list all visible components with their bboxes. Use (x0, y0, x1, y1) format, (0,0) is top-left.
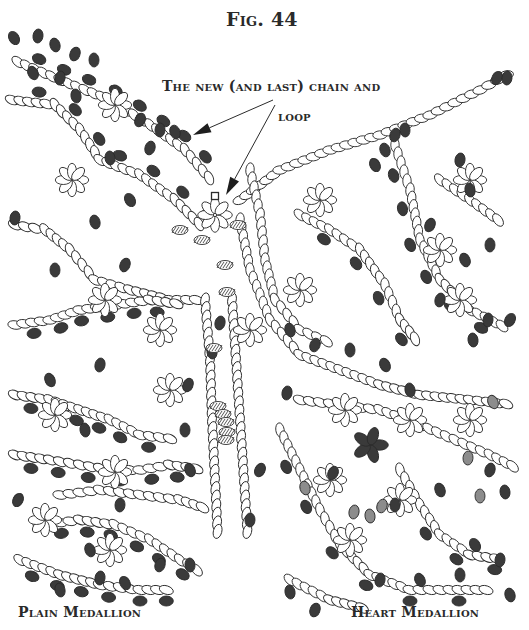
dark-bead (94, 357, 107, 373)
dark-bead (144, 473, 159, 485)
dark-bead (367, 156, 382, 173)
dark-bead (73, 585, 89, 598)
dark-bead (423, 217, 438, 234)
dark-bead (118, 257, 133, 274)
dark-bead (32, 28, 44, 43)
dark-bead (483, 462, 496, 478)
dark-bead (80, 471, 95, 483)
dark-bead (281, 385, 293, 401)
dark-bead (126, 307, 141, 319)
dark-bead (115, 498, 126, 513)
dark-bead (23, 462, 38, 474)
dark-bead (433, 482, 447, 499)
annotation-text-line2: loop (278, 108, 311, 124)
dark-bead (155, 123, 166, 138)
dark-bead (122, 191, 138, 208)
dark-bead (467, 332, 479, 347)
dark-bead (88, 214, 101, 230)
dark-bead (80, 526, 95, 538)
gray-bead (475, 489, 485, 503)
gray-bead (463, 451, 474, 466)
dark-bead (455, 568, 465, 582)
dark-bead (396, 201, 409, 217)
dark-bead (180, 423, 190, 437)
dark-bead (83, 542, 97, 558)
dark-bead (159, 596, 173, 606)
arrowhead-icon (193, 123, 211, 135)
dark-bead (503, 587, 516, 603)
dark-bead (377, 357, 392, 374)
dark-bead (390, 498, 400, 512)
dark-bead (485, 238, 495, 252)
dark-bead (245, 513, 256, 528)
bead (498, 397, 515, 411)
dark-bead (89, 53, 99, 67)
dark-bead (170, 471, 185, 483)
dark-bead (454, 152, 466, 168)
dark-bead (43, 372, 58, 389)
arrow-line (235, 105, 275, 179)
square-marker-icon (212, 193, 219, 200)
dark-bead (6, 29, 22, 46)
dark-bead (371, 290, 386, 307)
dark-bead (10, 491, 25, 508)
arrowhead-icon (226, 177, 239, 195)
arrow-line (209, 100, 273, 128)
dark-bead (48, 37, 61, 53)
dark-bead (26, 327, 41, 339)
caption-plain-medallion: Plain Medallion (18, 604, 141, 620)
dark-bead (32, 86, 47, 98)
dark-bead (458, 252, 473, 269)
lace-diagram (0, 0, 529, 630)
dark-bead (50, 263, 60, 277)
dark-bead (308, 602, 322, 619)
dark-bead (378, 142, 392, 158)
figure-title: Fig. 44 (226, 8, 298, 30)
dark-bead (141, 441, 156, 453)
dark-bead (252, 462, 267, 479)
dark-bead (101, 591, 116, 603)
dark-bead (74, 315, 89, 327)
dark-bead (143, 140, 157, 156)
gray-bead (364, 508, 376, 523)
gray-bead (348, 504, 361, 520)
dark-bead (387, 167, 401, 183)
dark-bead (23, 402, 38, 414)
dark-bead (499, 484, 511, 499)
dark-bead (68, 46, 82, 63)
annotation-text: The new (and last) chain and (162, 78, 380, 94)
dark-bead (345, 343, 356, 358)
dark-bead (213, 315, 226, 331)
dark-bead (50, 466, 65, 478)
caption-heart-medallion: Heart Medallion (351, 604, 479, 620)
bead (162, 432, 179, 446)
